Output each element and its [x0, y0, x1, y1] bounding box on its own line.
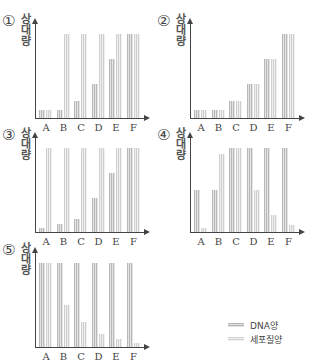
bar-dna [264, 59, 270, 118]
bar-group-F [127, 251, 141, 347]
y-axis-label-char: 량 [175, 150, 187, 161]
y-axis-label: 상대량 [20, 128, 32, 161]
x-axis-arrow-icon [144, 115, 150, 121]
x-tick-label: E [109, 351, 123, 362]
bar-cytoplasm [219, 110, 225, 118]
bar-dna [212, 190, 218, 232]
y-axis [35, 136, 36, 232]
bar-cytoplasm [46, 110, 52, 118]
bar-group-B [212, 136, 226, 232]
bar-group-E [109, 22, 123, 118]
bar-group-B [57, 136, 71, 232]
legend: DNA양 세포질양 [228, 318, 282, 346]
bar-dna [109, 173, 115, 232]
bar-dna [39, 228, 45, 232]
bar-group-E [109, 136, 123, 232]
x-tick-label: A [194, 236, 208, 247]
bar-cytoplasm [236, 148, 242, 232]
bar-cytoplasm [271, 215, 277, 232]
bar-group-E [264, 136, 278, 232]
bar-group-A [39, 136, 53, 232]
bar-dna [194, 110, 200, 118]
x-axis-arrow-icon [144, 344, 150, 350]
bar-group-F [282, 22, 296, 118]
bar-group-A [39, 22, 53, 118]
bar-dna [109, 263, 115, 347]
bar-area [39, 136, 143, 232]
x-tick-label: B [57, 351, 71, 362]
x-axis-arrow-icon [299, 229, 305, 235]
x-axis [190, 118, 300, 119]
x-axis [190, 232, 300, 233]
x-axis [35, 347, 145, 348]
bar-cytoplasm [99, 334, 105, 347]
option-number: ① [2, 12, 15, 30]
bar-dna [229, 148, 235, 232]
bar-cytoplasm [99, 34, 105, 118]
bar-cytoplasm [46, 148, 52, 232]
legend-item-cytoplasm: 세포질양 [228, 332, 282, 346]
bar-group-A [194, 22, 208, 118]
legend-label-cytoplasm: 세포질양 [250, 333, 282, 346]
bar-dna [57, 110, 63, 118]
bar-cytoplasm [81, 34, 87, 118]
chart-panel-1: ①상대량ABCDEF [2, 12, 152, 127]
bar-group-F [127, 22, 141, 118]
bar-cytoplasm [81, 322, 87, 347]
bar-cytoplasm [254, 84, 260, 118]
bar-area [194, 136, 298, 232]
y-axis-label-char: 량 [20, 150, 32, 161]
y-axis-label-char: 량 [20, 36, 32, 47]
bar-cytoplasm [134, 343, 140, 347]
bar-area [39, 22, 143, 118]
bar-dna [282, 148, 288, 232]
y-axis [190, 136, 191, 232]
bar-dna [264, 148, 270, 232]
bar-cytoplasm [116, 34, 122, 118]
bar-area [39, 251, 143, 347]
bar-group-C [74, 22, 88, 118]
bar-group-C [74, 136, 88, 232]
legend-item-dna: DNA양 [228, 318, 282, 332]
bar-dna [194, 190, 200, 232]
bar-cytoplasm [116, 148, 122, 232]
y-axis [35, 22, 36, 118]
bar-cytoplasm [271, 59, 277, 118]
bar-cytoplasm [81, 148, 87, 232]
bar-group-B [57, 22, 71, 118]
bar-group-D [92, 251, 106, 347]
option-number: ③ [2, 126, 15, 144]
y-axis-label-char: 량 [20, 265, 32, 276]
bar-group-D [92, 22, 106, 118]
x-tick-label: D [92, 351, 106, 362]
bar-dna [92, 84, 98, 118]
bar-dna [247, 148, 253, 232]
bar-cytoplasm [134, 148, 140, 232]
x-tick-label: D [247, 236, 261, 247]
bar-cytoplasm [289, 225, 295, 232]
y-axis-label: 상대량 [20, 243, 32, 276]
bar-group-E [109, 251, 123, 347]
bar-group-A [194, 136, 208, 232]
chart-panel-2: ②상대량ABCDEF [157, 12, 307, 127]
bar-dna [127, 148, 133, 232]
x-axis-arrow-icon [144, 229, 150, 235]
bar-dna [282, 34, 288, 118]
bar-group-A [39, 251, 53, 347]
bar-dna [212, 110, 218, 118]
bar-dna [39, 263, 45, 347]
bar-group-D [247, 22, 261, 118]
bar-cytoplasm [64, 148, 70, 232]
y-axis [190, 22, 191, 118]
bar-cytoplasm [134, 34, 140, 118]
dna-swatch-icon [228, 323, 244, 327]
x-tick-label: B [212, 236, 226, 247]
x-axis-arrow-icon [299, 115, 305, 121]
bar-cytoplasm [99, 148, 105, 232]
bar-dna [127, 34, 133, 118]
bar-cytoplasm [64, 34, 70, 118]
bar-cytoplasm [64, 305, 70, 347]
x-tick-label: F [127, 351, 141, 362]
bar-dna [127, 263, 133, 347]
x-tick-label: E [264, 236, 278, 247]
